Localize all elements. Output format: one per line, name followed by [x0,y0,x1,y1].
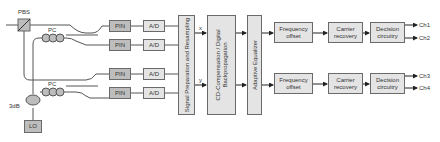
adaptive-equalizer-box: Adaptive Equalizer [247,15,262,115]
ad-label: A/D [149,90,159,97]
cd-label: CD-Compensation / Digital Backpropagatio… [215,20,229,110]
decision-box-2: Decision circuitry [370,73,405,94]
decision-box-1: Decision circuitry [370,22,405,43]
coupler-label: 3dB [9,103,20,110]
pin-box-2: PIN [109,39,131,51]
ch2-label: Ch2 [419,35,430,42]
carrier-label: Carrier recovery [331,26,361,40]
carrier-label: Carrier recovery [331,77,361,91]
ad-box-4: A/D [143,87,165,99]
cd-compensation-box: CD-Compensation / Digital Backpropagatio… [207,15,236,115]
pc-coils-top [42,34,64,42]
ch1-label: Ch1 [419,22,430,29]
ad-label: A/D [149,23,159,30]
decision-label: Decision circuitry [373,26,403,40]
ad-box-1: A/D [143,20,165,32]
coupler-3db [26,95,40,105]
ad-label: A/D [149,71,159,78]
pin-box-4: PIN [109,87,131,99]
pc-top-label: PC [48,27,56,34]
freq-offset-box-1: Frequency offset [274,22,313,43]
ch4-label: Ch4 [419,85,430,92]
pbs-label: PBS [18,9,30,16]
signal-prep-box: Signal Preparation and Resampling [178,15,195,115]
carrier-recovery-box-1: Carrier recovery [328,22,363,43]
ad-box-2: A/D [143,39,165,51]
ad-label: A/D [149,42,159,49]
pc-bottom-label: PC [48,81,56,88]
ad-box-3: A/D [143,68,165,80]
pin-label: PIN [115,90,125,97]
lo-label: LO [29,123,37,130]
pin-box-1: PIN [109,20,131,32]
eq-label: Adaptive Equalizer [251,40,258,90]
pbs-splitter [18,19,30,31]
pin-label: PIN [115,42,125,49]
pc-coils-bottom [42,88,64,96]
signal-prep-label: Signal Preparation and Resampling [183,17,190,113]
carrier-recovery-box-2: Carrier recovery [328,73,363,94]
pin-label: PIN [115,23,125,30]
pin-label: PIN [115,71,125,78]
x-label: x [199,25,202,32]
pin-box-3: PIN [109,68,131,80]
freq-label: Frequency offset [277,77,311,91]
freq-label: Frequency offset [277,26,311,40]
ch3-label: Ch3 [419,73,430,80]
y-label: y [199,77,202,84]
freq-offset-box-2: Frequency offset [274,73,313,94]
decision-label: Decision circuitry [373,77,403,91]
lo-box: LO [24,120,42,133]
